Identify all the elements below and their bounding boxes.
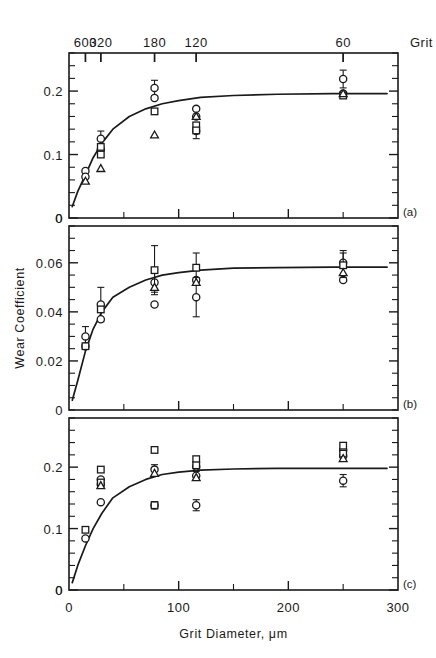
x-axis-tick-label: 0 [65, 600, 73, 615]
figure-container: 60032018012060Grit00.10.20(a)0.020.040.0… [0, 0, 436, 658]
data-point-square [193, 264, 200, 271]
data-point-circle [193, 502, 200, 509]
data-point-square [98, 306, 105, 313]
panel-label: (a) [403, 206, 417, 218]
data-point-circle [151, 94, 158, 101]
panel-frame [69, 418, 398, 590]
y-axis-tick-label: 0.02 [36, 354, 63, 369]
data-point-circle [340, 75, 347, 82]
data-point-triangle [97, 165, 105, 172]
y-axis-tick-label: 0.04 [36, 305, 63, 320]
data-point-square [151, 447, 158, 454]
series-triangle [82, 90, 348, 184]
series-square [82, 442, 346, 533]
y-axis-tick-label: 0.06 [36, 256, 63, 271]
top-axis-tick-label: 120 [185, 35, 208, 50]
data-point-circle [97, 316, 104, 323]
data-point-triangle [339, 269, 347, 276]
y-axis-tick-label: 0.2 [43, 460, 63, 475]
data-point-square [98, 151, 105, 158]
data-point-square [98, 466, 105, 473]
panel-c: 00.10.20(c) [43, 418, 416, 598]
top-axis-tick-label: 180 [143, 35, 166, 50]
data-point-circle [97, 135, 104, 142]
data-point-square [151, 502, 158, 509]
y-axis-tick-label: 0.2 [43, 84, 63, 99]
data-point-square [82, 343, 89, 350]
x-axis-tick-label: 100 [167, 600, 190, 615]
data-point-circle [82, 333, 89, 340]
x-axis-title: Grit Diameter, μm [179, 627, 287, 641]
bottom-axis: 0100200300Grit Diameter, μm [65, 600, 409, 641]
data-point-square [151, 267, 158, 274]
fitted-curve [72, 267, 387, 400]
panel-a: 00.10.20(a) [43, 53, 417, 226]
data-point-circle [193, 294, 200, 301]
top-axis-tick-label: 60 [335, 35, 350, 50]
data-point-square [193, 462, 200, 469]
data-point-triangle [151, 131, 159, 138]
y-axis-title-group: Wear Coefficient [13, 267, 27, 369]
series-circle [82, 446, 347, 542]
data-point-circle [340, 477, 347, 484]
data-point-square [151, 108, 158, 115]
y-axis-tick-label: 0.1 [43, 148, 63, 163]
top-axis-title: Grit [410, 35, 433, 50]
y-axis-zero-label: 0 [55, 403, 63, 418]
data-point-circle [151, 84, 158, 91]
top-axis: 60032018012060Grit [74, 35, 433, 62]
y-axis-zero-label: 0 [55, 583, 63, 598]
fitted-curve [72, 468, 387, 582]
x-axis-tick-label: 300 [386, 600, 409, 615]
data-point-circle [97, 499, 104, 506]
series-square [98, 92, 347, 158]
panel-frame [69, 53, 398, 218]
data-point-square [98, 144, 105, 151]
wear-coefficient-figure: 60032018012060Grit00.10.20(a)0.020.040.0… [0, 0, 436, 658]
y-axis-tick-label: 0.1 [43, 522, 63, 537]
top-axis-tick-label: 320 [89, 35, 112, 50]
panel-b: 0.020.040.060(b) [36, 226, 418, 418]
series-square [82, 246, 347, 350]
series-circle [82, 251, 347, 350]
data-point-circle [82, 535, 89, 542]
panel-label: (b) [403, 398, 417, 410]
data-point-square [193, 127, 200, 134]
fitted-curve [72, 94, 387, 207]
data-point-circle [151, 301, 158, 308]
series-circle [82, 70, 347, 180]
y-axis-title: Wear Coefficient [13, 267, 27, 369]
data-point-square [82, 527, 89, 534]
panel-label: (c) [403, 578, 417, 590]
data-point-square [340, 442, 347, 449]
series-triangle [97, 455, 347, 489]
panel-frame [69, 226, 398, 410]
y-axis-zero-label: 0 [55, 211, 63, 226]
x-axis-tick-label: 200 [277, 600, 300, 615]
